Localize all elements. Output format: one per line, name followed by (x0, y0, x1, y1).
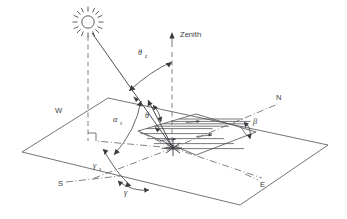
incidence-angle-label: θ (145, 111, 149, 120)
svg-text:s: s (120, 120, 122, 126)
svg-text:z: z (144, 53, 148, 59)
incident-beam-ray (92, 33, 173, 148)
zenith-label: Zenith (180, 30, 201, 39)
slope-angle-arc (240, 122, 252, 139)
svg-text:β: β (252, 117, 258, 126)
svg-text:α: α (113, 115, 118, 124)
tilted-surface-hatching (141, 119, 251, 149)
surface-azimuth-label: γ (124, 188, 128, 197)
compass-label-north: N (276, 93, 282, 102)
slope-angle-label: β (252, 117, 258, 126)
solar-altitude-arc (114, 101, 142, 155)
zenith-angle-arc (129, 62, 172, 91)
tilted-collector-surface (138, 114, 256, 155)
sun-icon (73, 7, 104, 38)
svg-text:γ: γ (93, 161, 97, 170)
sun-vertical-drop-line (88, 36, 96, 141)
solar-geometry-figure: Zenith θ z α s θ γ s γ β W N E (0, 0, 347, 219)
surface-azimuth-arc (118, 181, 149, 193)
svg-text:s: s (99, 166, 101, 172)
compass-label-south: S (58, 179, 63, 188)
solar-azimuth-arc (103, 149, 131, 187)
zenith-arrow-icon (169, 32, 174, 39)
svg-text:θ: θ (138, 48, 142, 57)
origin-point (164, 140, 182, 156)
horizontal-reference-plane (22, 98, 328, 205)
solar-altitude-label: α s (113, 115, 122, 126)
svg-text:θ: θ (145, 111, 149, 120)
svg-text:γ: γ (124, 188, 128, 197)
compass-label-east: E (260, 180, 265, 189)
solar-geometry-svg: Zenith θ z α s θ γ s γ β W N E (0, 0, 347, 219)
zenith-angle-label: θ z (138, 48, 148, 59)
compass-label-west: W (55, 106, 63, 115)
